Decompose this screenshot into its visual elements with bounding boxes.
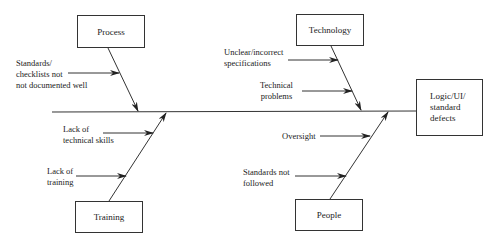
- cause-label: Lack of training: [47, 166, 73, 188]
- category-box-people: People: [295, 199, 363, 231]
- category-label: Process: [97, 27, 125, 37]
- category-label: Technology: [309, 25, 351, 35]
- effect-label: Logic/UI/ standard defects: [430, 91, 466, 124]
- bone-people: [330, 112, 388, 199]
- effect-box: Logic/UI/ standard defects: [416, 79, 483, 136]
- category-label: Training: [94, 212, 125, 222]
- category-box-technology: Technology: [296, 14, 364, 46]
- bone-technology: [331, 46, 361, 110]
- bone-process: [108, 48, 138, 111]
- cause-label: Standards not followed: [243, 167, 290, 189]
- category-box-process: Process: [77, 15, 145, 48]
- bone-training: [109, 113, 166, 201]
- category-box-training: Training: [75, 201, 143, 233]
- cause-label: Unclear/incorrect specifications: [224, 47, 283, 69]
- cause-label: Technical problems: [260, 80, 293, 102]
- cause-label: Oversight: [282, 131, 316, 142]
- spine: [52, 111, 416, 112]
- category-label: People: [317, 210, 342, 220]
- cause-label: Standards/ checklists not not documented…: [16, 58, 87, 91]
- cause-label: Lack of technical skills: [63, 124, 114, 146]
